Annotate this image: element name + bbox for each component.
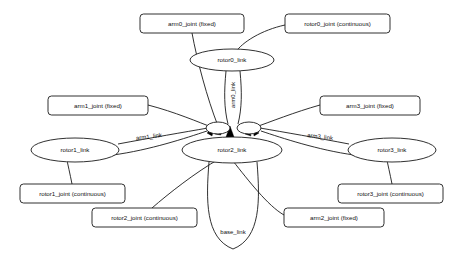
rotor3-link-label: rotor3_link — [378, 146, 408, 153]
node-rotor3-joint[interactable]: rotor3_joint (continuous) — [338, 184, 443, 203]
hub-left-ellipse — [206, 122, 230, 134]
edge-label-arm0-link: arm0_link — [230, 81, 236, 108]
rotor0-link-label: rotor0_link — [218, 56, 248, 63]
arm2-joint-label: arm2_joint (fixed) — [310, 214, 358, 221]
edge-arm0-link-right — [238, 71, 241, 124]
box-layer: arm0_joint (fixed) rotor0_joint (continu… — [20, 14, 443, 227]
arm0-joint-label: arm0_joint (fixed) — [168, 20, 216, 27]
rotor3-joint-label: rotor3_joint (continuous) — [357, 190, 424, 197]
rotor2-joint-label: rotor2_joint (continuous) — [111, 214, 178, 221]
edge-label-base-link: base_link — [220, 229, 246, 235]
edge-arm3-joint-to-hub — [253, 105, 320, 128]
node-rotor1-joint[interactable]: rotor1_joint (continuous) — [20, 184, 125, 203]
node-arm0-joint[interactable]: arm0_joint (fixed) — [140, 14, 244, 33]
edge-label-arm3-link: arm3_link — [307, 132, 335, 141]
rotor1-joint-label: rotor1_joint (continuous) — [39, 190, 106, 197]
node-rotor0-joint[interactable]: rotor0_joint (continuous) — [285, 14, 390, 33]
edge-arm1-joint-to-hub — [148, 105, 214, 128]
edge-base-link-self-loop — [208, 162, 259, 249]
node-rotor2-joint[interactable]: rotor2_joint (continuous) — [92, 208, 197, 227]
node-rotor2-link[interactable]: rotor2_link — [182, 137, 282, 163]
edge-label-arm1-link: arm1_link — [136, 132, 164, 141]
node-arm3-joint[interactable]: arm3_joint (fixed) — [320, 96, 420, 115]
rotor2-link-label: rotor2_link — [218, 146, 248, 153]
node-rotor1-link[interactable]: rotor1_link — [31, 138, 119, 162]
edge-arm3-link-upper — [260, 128, 349, 144]
rotor1-link-label: rotor1_link — [61, 146, 91, 153]
node-rotor0-link[interactable]: rotor0_link — [190, 49, 274, 71]
edge-arm0-link-left — [225, 71, 228, 124]
arm1-joint-label: arm1_joint (fixed) — [74, 102, 122, 109]
graph-svg: rotor0_link rotor1_link rotor2_link roto… — [0, 0, 465, 257]
node-arm1-joint[interactable]: arm1_joint (fixed) — [48, 96, 148, 115]
edge-arm0-joint-to-hub — [192, 33, 218, 126]
rotor0-joint-label: rotor0_joint (continuous) — [304, 20, 371, 27]
node-rotor3-link[interactable]: rotor3_link — [348, 138, 436, 162]
hub-right-ellipse — [237, 122, 261, 134]
node-arm2-joint[interactable]: arm2_joint (fixed) — [284, 208, 384, 227]
diagram-canvas: rotor0_link rotor1_link rotor2_link roto… — [0, 0, 465, 257]
arm3-joint-label: arm3_joint (fixed) — [346, 102, 394, 109]
